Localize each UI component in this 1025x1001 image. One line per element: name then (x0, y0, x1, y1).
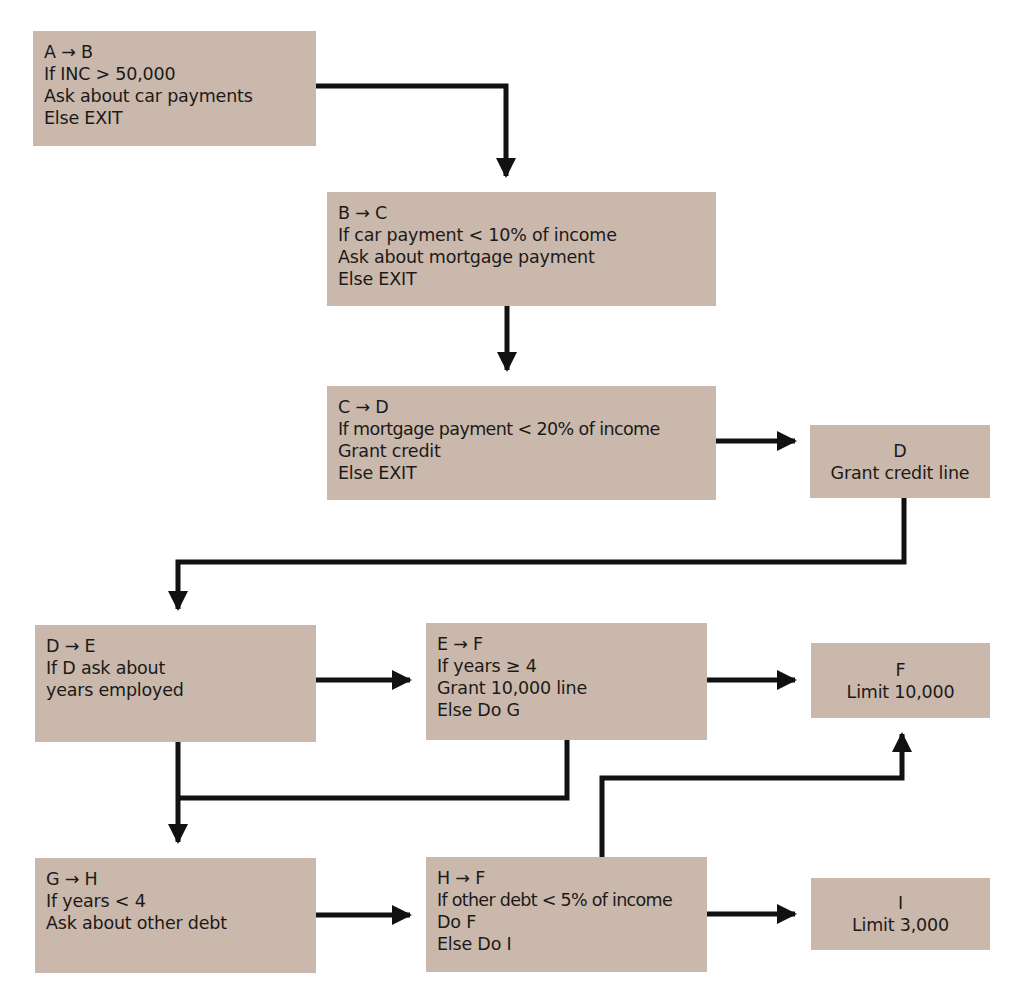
node-title: E → F (437, 633, 707, 655)
node-else: Else Do I (437, 933, 707, 955)
node-result: Limit 10,000 (811, 681, 990, 703)
node-action: Ask about mortgage payment (338, 246, 716, 268)
node-else: Else EXIT (338, 268, 716, 290)
edge-ef-to-gh (178, 740, 567, 798)
node-action: Grant credit (338, 440, 716, 462)
node-title: A → B (44, 41, 316, 63)
node-else: Else Do G (437, 699, 707, 721)
node-condition: If car payment < 10% of income (338, 224, 716, 246)
node-title: F (811, 659, 990, 681)
flowchart-canvas: A → B If INC > 50,000 Ask about car paym… (0, 0, 1025, 1001)
edge-d-to-de (178, 498, 904, 609)
node-result: Grant credit line (810, 462, 990, 484)
node-action: Ask about other debt (46, 912, 316, 934)
node-g-to-h: G → H If years < 4 Ask about other debt (35, 858, 316, 973)
node-action: Grant 10,000 line (437, 677, 707, 699)
node-title: D → E (46, 635, 316, 657)
node-d: D Grant credit line (810, 425, 990, 498)
connectors-layer (0, 0, 1025, 1001)
node-f: F Limit 10,000 (811, 643, 990, 718)
node-else: Else EXIT (44, 107, 316, 129)
node-condition: If D ask about (46, 657, 316, 679)
node-condition: If INC > 50,000 (44, 63, 316, 85)
node-action: Do F (437, 911, 707, 933)
node-title: H → F (437, 867, 707, 889)
node-condition: If years ≥ 4 (437, 655, 707, 677)
node-e-to-f: E → F If years ≥ 4 Grant 10,000 line Els… (426, 623, 707, 740)
edge-ab-to-bc (316, 86, 506, 176)
node-d-to-e: D → E If D ask about years employed (35, 625, 316, 742)
node-condition: If mortgage payment < 20% of income (338, 418, 716, 440)
node-a-to-b: A → B If INC > 50,000 Ask about car paym… (33, 31, 316, 146)
node-condition: If years < 4 (46, 890, 316, 912)
node-i: I Limit 3,000 (811, 878, 990, 950)
node-h-to-f: H → F If other debt < 5% of income Do F … (426, 857, 707, 972)
node-result: Limit 3,000 (811, 914, 990, 936)
node-action: Ask about car payments (44, 85, 316, 107)
node-c-to-d: C → D If mortgage payment < 20% of incom… (327, 386, 716, 500)
node-title: C → D (338, 396, 716, 418)
node-title: D (810, 440, 990, 462)
node-title: I (811, 892, 990, 914)
node-title: G → H (46, 868, 316, 890)
node-action: years employed (46, 679, 316, 701)
node-b-to-c: B → C If car payment < 10% of income Ask… (327, 192, 716, 306)
node-title: B → C (338, 202, 716, 224)
node-condition: If other debt < 5% of income (437, 889, 707, 911)
node-else: Else EXIT (338, 462, 716, 484)
edge-hf-to-f (602, 734, 902, 857)
